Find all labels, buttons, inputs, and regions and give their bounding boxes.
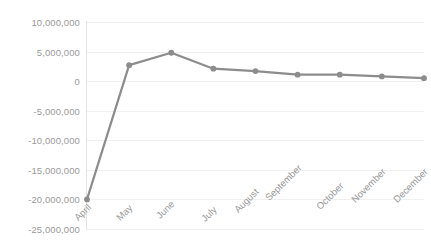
data-point-marker	[84, 197, 90, 203]
data-point-marker	[379, 74, 385, 80]
data-series-layer	[0, 0, 431, 245]
data-point-marker	[168, 50, 174, 56]
data-point-marker	[253, 68, 259, 74]
data-point-marker	[210, 66, 216, 72]
line-chart: 10,000,0005,000,0000-5,000,000-10,000,00…	[0, 0, 431, 245]
data-point-marker	[337, 72, 343, 78]
data-point-marker	[421, 75, 427, 81]
series-line	[87, 53, 424, 200]
data-point-marker	[126, 62, 132, 68]
data-point-marker	[295, 72, 301, 78]
